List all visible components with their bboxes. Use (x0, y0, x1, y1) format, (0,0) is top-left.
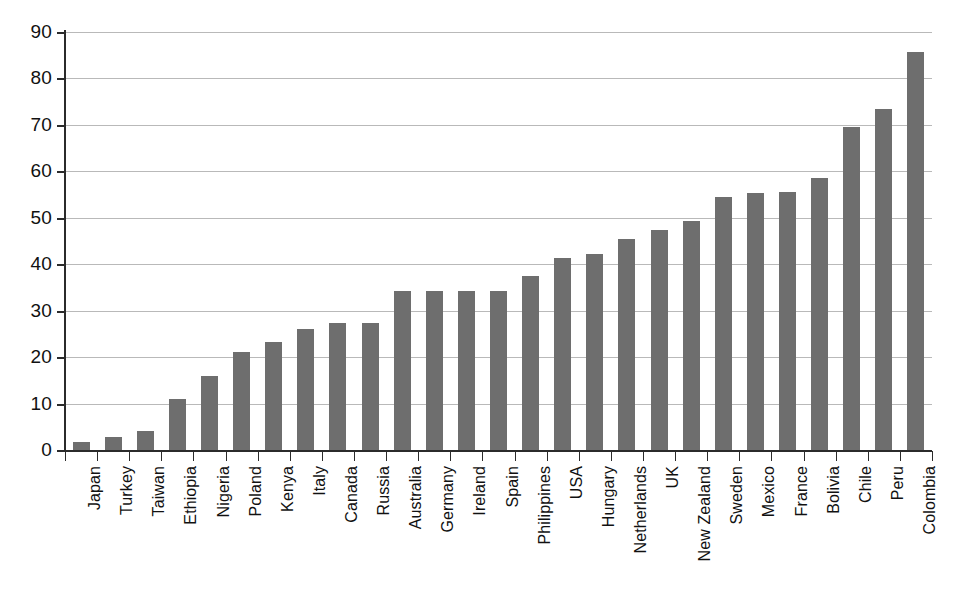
x-label-hungary: Hungary (601, 466, 617, 527)
x-label-sweden: Sweden (729, 466, 745, 524)
x-label-nigeria: Nigeria (216, 466, 232, 517)
x-label-peru: Peru (890, 466, 906, 500)
y-tick-mark-50 (57, 218, 66, 220)
x-label-italy: Italy (312, 466, 328, 496)
x-label-turkey: Turkey (119, 466, 135, 515)
y-tick-mark-90 (57, 32, 66, 34)
y-tick-mark-10 (57, 404, 66, 406)
x-label-new-zealand: New Zealand (697, 466, 713, 561)
x-label-france: France (794, 466, 810, 516)
bar-chart: 0102030405060708090 JapanTurkeyTaiwanEth… (0, 0, 961, 598)
x-label-poland: Poland (248, 466, 264, 516)
y-tick-mark-60 (57, 171, 66, 173)
x-label-russia: Russia (376, 466, 392, 516)
x-label-kenya: Kenya (280, 466, 296, 512)
y-tick-mark-40 (57, 264, 66, 266)
y-tick-mark-70 (57, 125, 66, 127)
x-label-canada: Canada (344, 466, 360, 523)
y-tick-mark-80 (57, 78, 66, 80)
y-tick-mark-20 (57, 357, 66, 359)
x-label-taiwan: Taiwan (151, 466, 167, 516)
x-label-mexico: Mexico (761, 466, 777, 517)
x-label-ireland: Ireland (472, 466, 488, 516)
y-tick-mark-0 (57, 450, 66, 452)
x-axis-category-labels: JapanTurkeyTaiwanEthiopiaNigeriaPolandKe… (0, 0, 961, 598)
x-label-colombia: Colombia (922, 466, 938, 534)
x-label-germany: Germany (440, 466, 456, 533)
x-label-usa: USA (569, 466, 585, 499)
x-label-ethiopia: Ethiopia (183, 466, 199, 525)
x-label-netherlands: Netherlands (633, 466, 649, 553)
y-tick-mark-30 (57, 311, 66, 313)
x-label-australia: Australia (408, 466, 424, 529)
x-label-bolivia: Bolivia (826, 466, 842, 514)
x-label-philippines: Philippines (537, 466, 553, 544)
x-label-chile: Chile (858, 466, 874, 503)
x-label-uk: UK (665, 466, 681, 488)
x-label-japan: Japan (87, 466, 103, 510)
x-label-spain: Spain (505, 466, 521, 507)
